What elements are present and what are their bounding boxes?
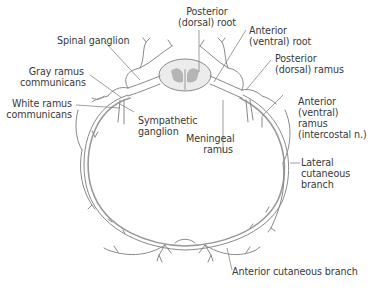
label-anterior-ventral-ramus: Anterior (ventral) ramus (intercostal n.…	[298, 96, 367, 140]
label-anterior-ventral-root: Anterior (ventral) root	[249, 25, 311, 47]
spinal-nerve-diagram: Posterior (dorsal) root Anterior (ventra…	[0, 0, 371, 295]
spinal-cord	[159, 59, 211, 91]
label-posterior-dorsal-root: Posterior (dorsal) root	[178, 6, 236, 28]
label-lateral-cutaneous-branch: Lateral cutaneous branch	[301, 157, 350, 190]
label-gray-ramus-communicans: Gray ramus communicans	[20, 66, 84, 88]
label-anterior-cutaneous-branch: Anterior cutaneous branch	[232, 266, 358, 277]
label-spinal-ganglion: Spinal ganglion	[57, 35, 129, 46]
label-posterior-dorsal-ramus: Posterior (dorsal) ramus	[275, 53, 344, 75]
label-white-ramus-communicans: White ramus communicans	[2, 98, 72, 120]
anterior-cutaneous-branches	[104, 239, 260, 262]
label-meningeal-ramus: Meningeal ramus	[186, 133, 233, 155]
